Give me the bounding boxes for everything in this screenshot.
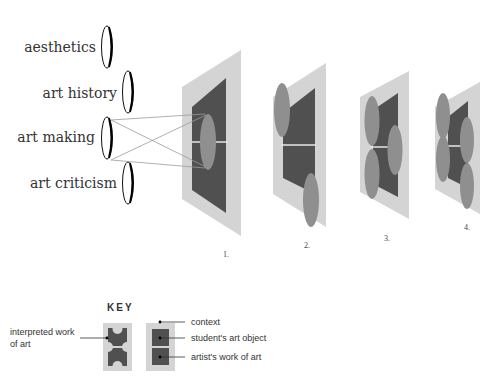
figure-number-4: 4. xyxy=(464,223,470,232)
key-title: KEY xyxy=(107,302,134,313)
key-interpreted-icon xyxy=(103,323,132,371)
key-label-artist: artist's work of art xyxy=(191,352,262,362)
figure-2 xyxy=(273,63,326,227)
lens-label-art-history: art history xyxy=(43,85,118,101)
interpretation-ellipse xyxy=(200,114,216,170)
key-components-icon xyxy=(146,323,175,371)
lens-icon-art-history xyxy=(123,71,134,113)
key-label-interpreted-2: of art xyxy=(10,339,31,349)
lens-label-art-criticism: art criticism xyxy=(30,175,117,191)
diagram-canvas: aesthetics art history art making art cr… xyxy=(0,0,499,385)
figure-3 xyxy=(360,71,409,219)
lens-icon-art-criticism xyxy=(123,162,134,204)
key-label-student: student's art object xyxy=(191,333,267,343)
key-label-context: context xyxy=(191,317,221,327)
figure-4 xyxy=(435,82,480,214)
figure-number-2: 2. xyxy=(304,241,310,250)
lens-label-aesthetics: aesthetics xyxy=(24,39,96,55)
key-label-interpreted-1: interpreted work xyxy=(10,327,75,337)
figure-number-3: 3. xyxy=(384,234,390,243)
lens-icon-art-making xyxy=(102,117,113,159)
lens-icon-aesthetics xyxy=(102,26,113,68)
lens-label-art-making: art making xyxy=(17,129,95,145)
figure-number-1: 1. xyxy=(223,250,229,259)
figure-1 xyxy=(182,50,241,236)
